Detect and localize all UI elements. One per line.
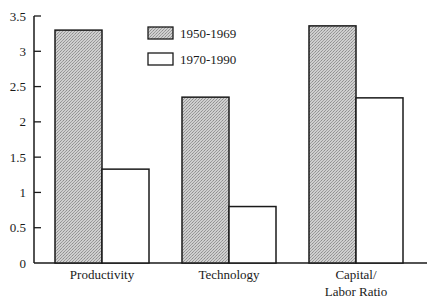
bar-1970-1990-2 bbox=[356, 98, 403, 263]
y-tick-label: 0.5 bbox=[10, 220, 26, 235]
bar-chart: 00.511.522.533.5 ProductivityTechnologyC… bbox=[0, 0, 433, 302]
bar-1950-1969-1 bbox=[182, 97, 229, 263]
x-category-label: Productivity bbox=[70, 267, 135, 282]
legend-swatch bbox=[148, 27, 173, 39]
x-category-label: Labor Ratio bbox=[325, 284, 387, 299]
legend-label: 1970-1990 bbox=[180, 52, 236, 67]
y-tick-label: 1.5 bbox=[10, 150, 26, 165]
bar-1950-1969-2 bbox=[309, 26, 356, 263]
y-tick-label: 1 bbox=[20, 185, 27, 200]
x-category-label: Capital/ bbox=[335, 267, 377, 282]
y-axis: 00.511.522.533.5 bbox=[10, 9, 41, 271]
y-tick-label: 3.5 bbox=[10, 9, 26, 24]
y-tick-label: 3 bbox=[20, 44, 27, 59]
legend-swatch bbox=[148, 53, 173, 65]
y-tick-label: 0 bbox=[20, 256, 27, 271]
bar-1950-1969-0 bbox=[55, 30, 102, 263]
legend-label: 1950-1969 bbox=[180, 26, 236, 41]
bar-1970-1990-0 bbox=[102, 169, 149, 263]
y-tick-label: 2.5 bbox=[10, 79, 26, 94]
legend: 1950-19691970-1990 bbox=[148, 26, 236, 67]
y-tick-label: 2 bbox=[20, 114, 27, 129]
bar-1970-1990-1 bbox=[229, 207, 276, 263]
category-labels: ProductivityTechnologyCapital/Labor Rati… bbox=[70, 267, 387, 299]
x-category-label: Technology bbox=[198, 267, 260, 282]
